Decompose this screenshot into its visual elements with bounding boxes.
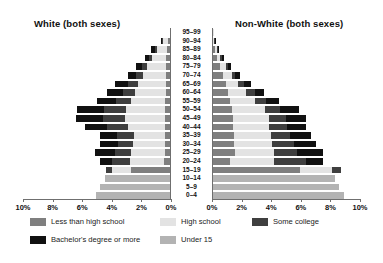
bar-row [212, 192, 360, 199]
bar-segment-bachelor-s-degree-or-more [85, 124, 108, 131]
bar-segment-high-school [135, 89, 165, 96]
bar-segment-under-15 [212, 192, 344, 199]
bar-segment-bachelor-s-degree-or-more [100, 132, 117, 139]
x-axis-tick-label: 8% [41, 203, 65, 212]
bar-segment-less-than-high-school [212, 81, 226, 88]
left-bars-group [23, 28, 171, 200]
bar-row [23, 38, 171, 45]
age-group-label: 90–94 [171, 37, 212, 46]
bar-segment-bachelor-s-degree-or-more [100, 158, 112, 165]
bar-segment-bachelor-s-degree-or-more [95, 149, 115, 156]
bar-segment-less-than-high-school [212, 89, 228, 96]
bar-segment-high-school [152, 55, 166, 62]
bar-row [212, 38, 360, 45]
age-group-label: 70–74 [171, 71, 212, 80]
bar-segment-some-college [112, 158, 130, 165]
bar-segment-bachelor-s-degree-or-more [286, 115, 306, 122]
x-axis-tick [271, 199, 272, 202]
bar-segment-less-than-high-school [212, 124, 233, 131]
x-axis-tick-label: 4% [259, 203, 283, 212]
bar-segment-high-school [235, 149, 273, 156]
bar-row [23, 72, 171, 79]
bar-segment-some-college [255, 98, 266, 105]
x-axis-tick [171, 199, 172, 202]
bar-segment-high-school [223, 72, 232, 79]
bar-segment-less-than-high-school [212, 72, 223, 79]
legend-label: Some college [273, 216, 319, 227]
bar-row [23, 167, 171, 174]
bar-segment-some-college [271, 132, 291, 139]
bar-segment-under-15 [96, 192, 171, 199]
bar-row [23, 141, 171, 148]
bar-row [23, 106, 171, 113]
bar-segment-less-than-high-school [212, 115, 233, 122]
bar-segment-bachelor-s-degree-or-more [228, 63, 231, 70]
age-group-label: 45–49 [171, 114, 212, 123]
age-group-label: 20–24 [171, 157, 212, 166]
plot-area: 95–9990–9485–8980–8475–7970–7465–6960–64… [0, 28, 383, 200]
bar-segment-high-school [125, 115, 165, 122]
bar-row [212, 158, 360, 165]
bar-segment-under-15 [212, 175, 335, 182]
bar-segment-high-school [226, 81, 239, 88]
bar-segment-some-college [115, 149, 131, 156]
bar-segment-high-school [233, 115, 269, 122]
x-axis-tick [53, 199, 54, 202]
bar-segment-high-school [130, 158, 164, 165]
bar-row [212, 124, 360, 131]
bar-row [23, 89, 171, 96]
bar-segment-bachelor-s-degree-or-more [145, 55, 149, 62]
bar-segment-some-college [107, 124, 128, 131]
age-group-label: 55–59 [171, 97, 212, 106]
bar-segment-some-college [272, 141, 293, 148]
legend-label: Less than high school [51, 216, 124, 227]
x-axis-tick [112, 199, 113, 202]
bar-row [212, 132, 360, 139]
bar-segment-less-than-high-school [212, 63, 220, 70]
bar-segment-some-college [118, 141, 133, 148]
x-axis-tick [242, 199, 243, 202]
bar-row [23, 132, 171, 139]
bar-segment-high-school [138, 81, 166, 88]
x-axis-tick-label: 10% [348, 203, 372, 212]
legend-swatch [30, 218, 46, 226]
bar-segment-some-college [269, 115, 286, 122]
bar-segment-high-school [134, 132, 165, 139]
age-group-label: 50–54 [171, 105, 212, 114]
bar-segment-some-college [269, 124, 287, 131]
bar-segment-some-college [103, 115, 125, 122]
bar-segment-some-college [332, 167, 341, 174]
bar-segment-bachelor-s-degree-or-more [161, 38, 162, 45]
bar-segment-high-school [131, 98, 165, 105]
x-axis-tick-label: 6% [289, 203, 313, 212]
bar-segment-high-school [233, 124, 269, 131]
x-axis-tick-label: 2% [230, 203, 254, 212]
chart-legend: Less than high schoolHigh schoolSome col… [0, 216, 383, 260]
bar-row [212, 106, 360, 113]
legend-swatch [160, 218, 176, 226]
right-axis-spine [212, 28, 213, 200]
age-group-label: 40–44 [171, 123, 212, 132]
bar-segment-under-15 [100, 184, 171, 191]
bar-row [23, 175, 171, 182]
age-group-label: 5–9 [171, 183, 212, 192]
bar-segment-some-college [265, 106, 281, 113]
bar-segment-bachelor-s-degree-or-more [128, 72, 137, 79]
bar-segment-less-than-high-school [212, 98, 230, 105]
bar-segment-bachelor-s-degree-or-more [290, 132, 310, 139]
bar-row [23, 184, 171, 191]
bar-segment-less-than-high-school [212, 141, 234, 148]
age-group-label: 35–39 [171, 131, 212, 140]
x-axis-tick-label: 6% [70, 203, 94, 212]
x-axis-tick-label: 10% [11, 203, 35, 212]
age-group-label: 30–34 [171, 140, 212, 149]
bar-segment-bachelor-s-degree-or-more [77, 106, 104, 113]
bar-row [23, 158, 171, 165]
bar-segment-some-college [274, 149, 297, 156]
bar-segment-less-than-high-school [212, 132, 234, 139]
x-axis-tick [23, 199, 24, 202]
bar-segment-under-15 [212, 184, 339, 191]
bar-segment-bachelor-s-degree-or-more [107, 89, 123, 96]
bar-segment-some-college [117, 132, 133, 139]
bar-row [23, 55, 171, 62]
